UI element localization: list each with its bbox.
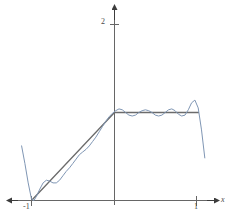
x-tick-label-pos1: 1 (194, 203, 198, 211)
chart-figure: 2 -1 1 x (0, 0, 231, 221)
y-axis-group (110, 9, 119, 201)
fourier-approximation-line (22, 100, 205, 200)
y-tick-label-2: 2 (101, 18, 105, 26)
plot-canvas (0, 0, 231, 221)
ramp-function-line (32, 113, 200, 201)
x-axis-label: x (221, 196, 225, 204)
x-tick-label-neg1: -1 (23, 203, 30, 211)
x-axis-group (11, 196, 215, 206)
